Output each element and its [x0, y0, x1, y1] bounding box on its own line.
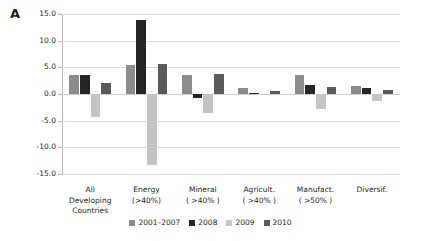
bar: [182, 75, 192, 94]
bar: [91, 94, 101, 117]
chart-legend: 2001–2007200820092010: [0, 219, 421, 227]
legend-item[interactable]: 2010: [264, 219, 292, 227]
bar: [351, 86, 361, 94]
legend-item[interactable]: 2009: [226, 219, 254, 227]
y-axis-tick-label: 0.0: [20, 90, 56, 98]
bar: [327, 87, 337, 94]
bar: [214, 74, 224, 94]
y-axis-tick-label: -10.0: [20, 143, 56, 151]
gridline: [62, 174, 400, 175]
bar-group: [287, 14, 343, 174]
legend-swatch-icon: [226, 220, 232, 226]
bar-group: [62, 14, 118, 174]
bar: [158, 64, 168, 94]
legend-swatch-icon: [129, 220, 135, 226]
y-axis-tick-label: -5.0: [20, 117, 56, 125]
bar: [305, 85, 315, 94]
y-axis-tick-label: 10.0: [20, 37, 56, 45]
bar: [372, 94, 382, 101]
bar: [147, 94, 157, 165]
y-axis-tick-label: 15.0: [20, 10, 56, 18]
x-axis-category-label: Diversif.: [336, 185, 408, 196]
legend-label: 2008: [198, 219, 217, 227]
bar: [101, 83, 111, 94]
bar-group: [344, 14, 400, 174]
legend-item[interactable]: 2001–2007: [129, 219, 180, 227]
bar-group: [175, 14, 231, 174]
chart-figure: A 15.010.05.00.0-5.0-10.0-15.0 All Devel…: [0, 0, 421, 241]
legend-swatch-icon: [189, 220, 195, 226]
bar: [193, 94, 203, 98]
bar: [383, 90, 393, 94]
bar: [238, 88, 248, 94]
plot-area: [62, 14, 400, 174]
panel-letter: A: [10, 7, 20, 20]
legend-label: 2001–2007: [138, 219, 180, 227]
bar: [260, 94, 270, 95]
y-axis-tick-label: -15.0: [20, 170, 56, 178]
bar: [316, 94, 326, 109]
bar: [203, 94, 213, 113]
bar-group: [118, 14, 174, 174]
bar: [362, 88, 372, 94]
y-axis-tick-label: 5.0: [20, 63, 56, 71]
legend-item[interactable]: 2008: [189, 219, 217, 227]
legend-label: 2010: [273, 219, 292, 227]
bar: [69, 75, 79, 94]
bar: [126, 65, 136, 94]
bar-group: [231, 14, 287, 174]
bar: [295, 75, 305, 94]
bar: [270, 91, 280, 94]
legend-label: 2009: [235, 219, 254, 227]
bar: [249, 93, 259, 94]
bar: [136, 20, 146, 94]
legend-swatch-icon: [264, 220, 270, 226]
bar: [80, 75, 90, 94]
